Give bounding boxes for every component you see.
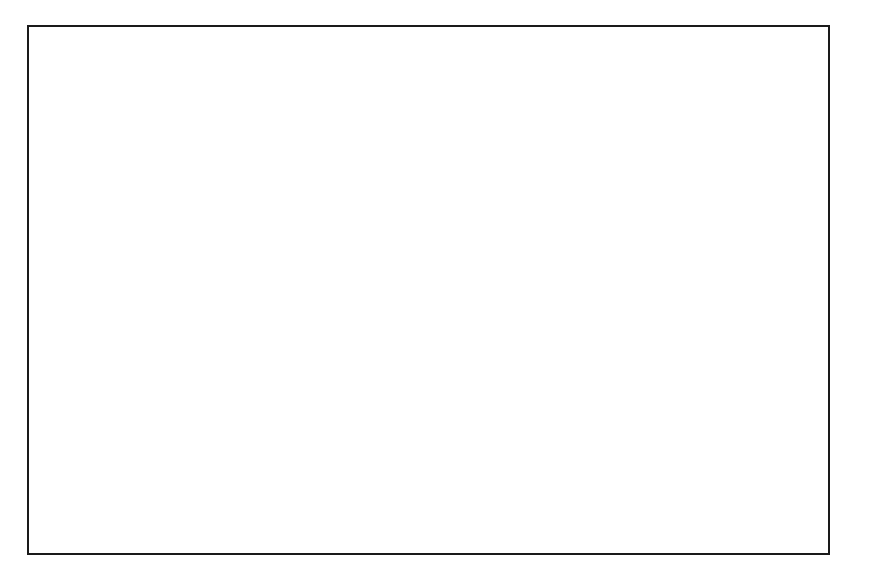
compromise-of-1850-map: OREGON TERRITORY MINNESOTA TERRITORY UNO… xyxy=(0,0,877,583)
map-border-frame xyxy=(27,25,830,555)
